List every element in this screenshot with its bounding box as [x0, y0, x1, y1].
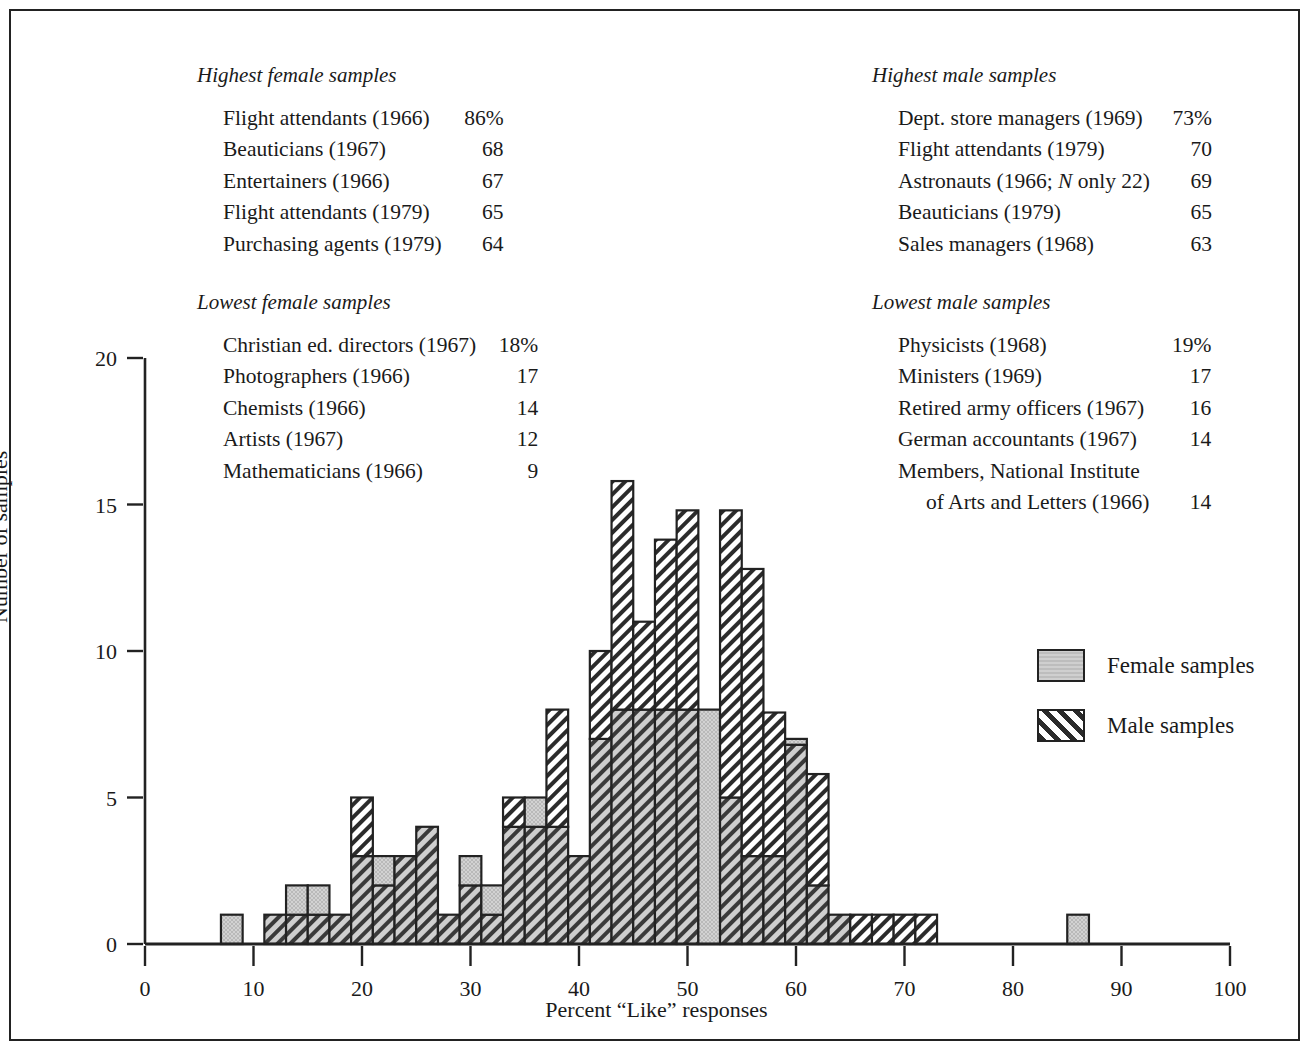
bar-female [525, 798, 547, 827]
bar-female [221, 915, 243, 944]
bar-overlap [612, 710, 634, 944]
y-tick-label: 0 [106, 932, 117, 957]
bar-female [1067, 915, 1089, 944]
bar-overlap [590, 739, 612, 944]
y-axis-label: Number of samples [0, 451, 13, 623]
bar-overlap [460, 885, 482, 944]
bar-female [308, 885, 330, 914]
bar-overlap [481, 915, 503, 944]
bar-female [481, 885, 503, 914]
bar-male [720, 510, 742, 797]
bar-overlap [568, 856, 590, 944]
bar-male [894, 915, 916, 944]
figure-frame: Highest female samples Flight attendants… [9, 9, 1300, 1041]
bar-male [850, 915, 872, 944]
bar-male [612, 481, 634, 710]
bar-female [785, 739, 807, 745]
bar-overlap [308, 915, 330, 944]
bar-overlap [785, 745, 807, 944]
bar-overlap [677, 710, 699, 944]
bar-overlap [329, 915, 351, 944]
bar-overlap [807, 885, 829, 944]
histogram-bars [221, 481, 1089, 944]
bar-female [698, 710, 720, 944]
bar-overlap [351, 856, 373, 944]
bar-male [546, 710, 568, 827]
bar-overlap [373, 885, 395, 944]
bar-male [633, 622, 655, 710]
bar-male [872, 915, 894, 944]
legend-swatch-male [1037, 709, 1085, 742]
bar-overlap [416, 827, 438, 944]
bar-overlap [395, 856, 417, 944]
bar-male [915, 915, 937, 944]
bar-overlap [438, 915, 460, 944]
x-axis-label: Percent “Like” responses [11, 997, 1302, 1023]
bar-male [807, 774, 829, 885]
bar-overlap [264, 915, 286, 944]
bar-male [742, 569, 764, 856]
bar-overlap [286, 915, 308, 944]
bar-male [677, 510, 699, 709]
bar-male [351, 798, 373, 857]
bar-overlap [633, 710, 655, 944]
bar-overlap [763, 856, 785, 944]
y-tick-label: 5 [106, 786, 117, 811]
y-tick-label: 15 [95, 493, 117, 518]
bar-overlap [742, 856, 764, 944]
bar-overlap [655, 710, 677, 944]
y-tick-label: 20 [95, 346, 117, 371]
bar-male [655, 540, 677, 710]
bar-overlap [503, 827, 525, 944]
bar-overlap [546, 827, 568, 944]
bar-overlap [720, 798, 742, 945]
bar-female [460, 856, 482, 885]
bar-male [590, 651, 612, 739]
bar-overlap [829, 915, 851, 944]
legend-item-female: Female samples [1037, 649, 1255, 682]
bar-overlap [525, 827, 547, 944]
legend-label-male: Male samples [1107, 713, 1234, 739]
y-tick-label: 10 [95, 639, 117, 664]
bar-male [503, 798, 525, 827]
bar-male [763, 713, 785, 857]
legend-swatch-female [1037, 649, 1085, 682]
bar-female [373, 856, 395, 885]
legend-item-male: Male samples [1037, 709, 1234, 742]
legend-label-female: Female samples [1107, 653, 1255, 679]
histogram-chart: 010203040506070809010005101520 [11, 11, 1302, 1043]
bar-female [286, 885, 308, 914]
